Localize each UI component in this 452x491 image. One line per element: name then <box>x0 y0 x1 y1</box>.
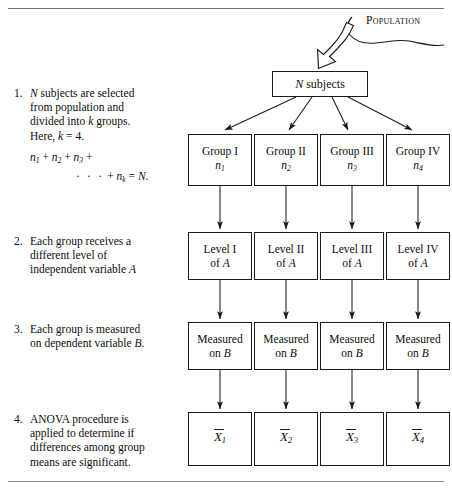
step-3: 3. Each group is measured on dependent v… <box>14 322 180 350</box>
overbar-1-icon <box>214 429 223 430</box>
box-level-4-line1: Level IV <box>397 242 438 256</box>
box-group-2: Group II n2 <box>254 134 318 186</box>
overbar-3-icon <box>346 429 355 430</box>
box-group-1: Group I n1 <box>188 134 252 186</box>
step-1-formula: n1 + n2 + n3 + · · · + nk = N. <box>30 150 180 187</box>
box-n-subjects: N subjects <box>272 71 368 97</box>
box-group-2-label: Group II <box>266 144 306 158</box>
box-group-1-label: Group I <box>202 144 238 158</box>
box-mean-1-symbol: X1 <box>214 430 226 447</box>
box-level-3-line2: of A <box>342 256 362 270</box>
box-mean-4: X4 <box>386 412 450 466</box>
box-mean-2: X2 <box>254 412 318 466</box>
step-1-number: 1. <box>14 86 30 100</box>
box-measured-1-line2: on B <box>209 346 230 360</box>
step-3-body: Each group is measured on dependent vari… <box>30 322 180 350</box>
box-level-1-line2: of A <box>210 256 230 270</box>
step-1-body: N subjects are selected from population … <box>30 86 180 143</box>
bottom-rule <box>8 481 444 482</box>
step-2: 2. Each group receives a different level… <box>14 234 180 277</box>
box-level-1-line1: Level I <box>204 242 237 256</box>
box-measured-2-line1: Measured <box>263 332 308 346</box>
box-group-4-label: Group IV <box>396 144 440 158</box>
overbar-2-icon <box>280 429 289 430</box>
measured-to-mean-arrows-icon <box>220 370 418 409</box>
box-measured-3: Measured on B <box>320 322 384 370</box>
box-level-1: Level I of A <box>188 232 252 280</box>
subjects-fanout-arrows-icon <box>225 97 412 130</box>
level-to-measured-arrows-icon <box>220 280 418 319</box>
box-mean-3-symbol: X3 <box>346 430 358 447</box>
figure-page: Population N subjects Group I n1 Group I… <box>0 0 452 491</box>
step-2-number: 2. <box>14 234 30 248</box>
box-mean-3: X3 <box>320 412 384 466</box>
step-4: 4. ANOVA procedure is applied to determi… <box>14 412 180 469</box>
box-level-2: Level II of A <box>254 232 318 280</box>
step-1: 1. N subjects are selected from populati… <box>14 86 180 187</box>
box-mean-2-symbol: X2 <box>280 430 292 447</box>
box-measured-1: Measured on B <box>188 322 252 370</box>
step-4-body: ANOVA procedure is applied to determine … <box>30 412 180 469</box>
box-measured-2-line2: on B <box>275 346 296 360</box>
step-3-number: 3. <box>14 322 30 336</box>
box-level-4: Level IV of A <box>386 232 450 280</box>
group-to-level-arrows-icon <box>220 186 418 229</box>
box-n-subjects-label: N subjects <box>295 77 345 91</box>
population-to-subjects-arrow-icon <box>318 23 354 69</box>
step-2-body: Each group receives a different level of… <box>30 234 180 277</box>
box-group-4-n: n4 <box>413 158 423 176</box>
box-measured-4: Measured on B <box>386 322 450 370</box>
box-mean-1: X1 <box>188 412 252 466</box>
box-group-3: Group III n3 <box>320 134 384 186</box>
box-group-3-n: n3 <box>347 158 357 176</box>
box-level-4-line2: of A <box>408 256 428 270</box>
box-measured-3-line1: Measured <box>329 332 374 346</box>
box-measured-1-line1: Measured <box>197 332 242 346</box>
box-mean-4-symbol: X4 <box>412 430 424 447</box>
step-4-number: 4. <box>14 412 30 426</box>
box-level-2-line1: Level II <box>268 242 305 256</box>
top-rule <box>8 8 444 9</box>
box-measured-2: Measured on B <box>254 322 318 370</box>
overbar-4-icon <box>412 429 421 430</box>
box-level-3-line1: Level III <box>332 242 373 256</box>
box-level-3: Level III of A <box>320 232 384 280</box>
box-group-2-n: n2 <box>281 158 291 176</box>
box-group-1-n: n1 <box>215 158 225 176</box>
step-1-formula-line2: · · · + nk = N. <box>30 169 180 187</box>
population-label: Population <box>366 14 420 26</box>
box-measured-3-line2: on B <box>341 346 362 360</box>
box-measured-4-line2: on B <box>407 346 428 360</box>
box-measured-4-line1: Measured <box>395 332 440 346</box>
box-group-4: Group IV n4 <box>386 134 450 186</box>
box-group-3-label: Group III <box>330 144 374 158</box>
box-level-2-line2: of A <box>276 256 296 270</box>
